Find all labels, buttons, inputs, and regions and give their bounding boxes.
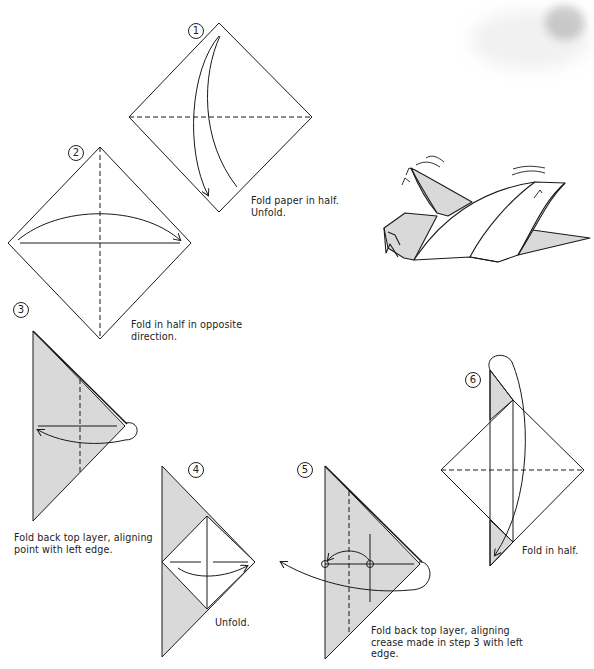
step-2-number: 2 [68,145,84,161]
step-2-diagram [8,147,191,339]
caption-line: Fold back top layer, aligning [14,532,153,544]
caption-line: crease made in step 3 with left [371,637,523,649]
step-4-number: 4 [188,462,204,478]
step-3-caption: Fold back top layer, aligning point with… [14,532,153,555]
diagram-canvas [0,0,594,669]
step-6-diagram [441,355,584,566]
caption-line: Fold in half in opposite [131,319,242,331]
step-6-number: 6 [465,372,481,388]
caption-line: point with left edge. [14,544,153,556]
step-5-caption: Fold back top layer, aligning crease mad… [371,625,523,660]
step-1-diagram [129,23,312,212]
step-6-caption: Fold in half. [522,545,578,557]
caption-line: Unfold. [251,207,339,219]
origami-instruction-page: 1 2 3 4 5 6 Fold paper in half. Unfold. … [0,0,594,669]
step-1-number: 1 [188,23,204,39]
caption-line: Fold in half. [522,545,578,557]
step-2-caption: Fold in half in opposite direction. [131,319,242,342]
step-5-number: 5 [297,462,313,478]
step-3-diagram [33,331,137,521]
caption-line: Fold paper in half. [251,195,339,207]
caption-line: Unfold. [215,617,250,629]
step-1-caption: Fold paper in half. Unfold. [251,195,339,218]
step-4-caption: Unfold. [215,617,250,629]
step-3-number: 3 [13,302,29,318]
caption-line: Fold back top layer, aligning [371,625,523,637]
caption-line: direction. [131,331,242,343]
caption-line: edge. [371,648,523,660]
finished-bird-diagram [384,156,590,262]
